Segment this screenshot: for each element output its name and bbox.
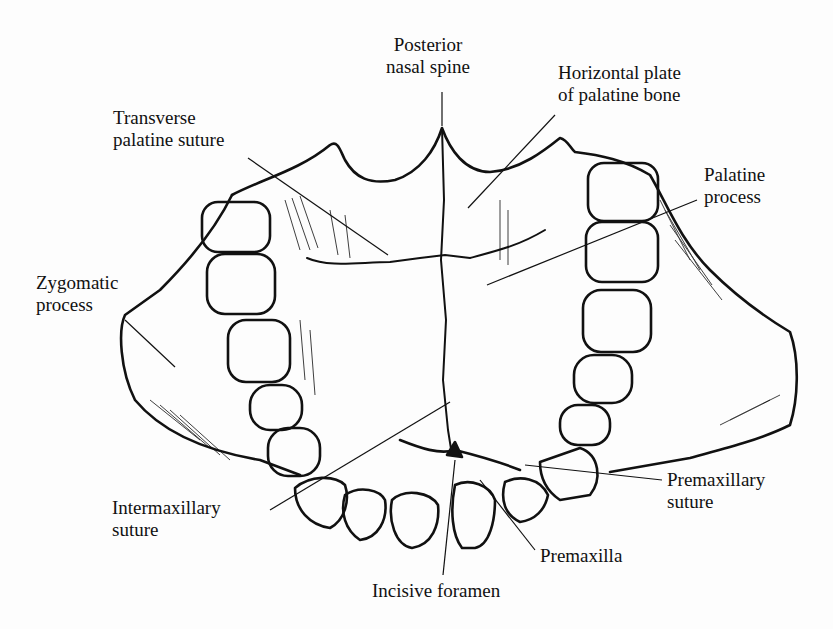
label-transverse-palatine-suture: Transverse palatine suture (113, 107, 224, 151)
leader-zygomatic-process (125, 320, 175, 367)
label-premaxilla: Premaxilla (540, 545, 622, 567)
palate-diagram: Posterior nasal spine Horizontal plate o… (0, 0, 833, 629)
leader-premaxilla (480, 480, 535, 550)
label-zygomatic-process: Zygomatic process (36, 272, 118, 316)
label-premaxillary-suture: Premaxillary suture (667, 469, 765, 513)
transverse-suture-line (307, 230, 545, 264)
label-incisive-foramen: Incisive foramen (372, 580, 500, 602)
label-intermaxillary-suture: Intermaxillary suture (112, 497, 221, 541)
label-posterior-nasal-spine: Posterior nasal spine (386, 34, 470, 78)
leader-horizontal-plate (468, 115, 555, 208)
label-horizontal-plate: Horizontal plate of palatine bone (558, 62, 681, 106)
label-palatine-process: Palatine process (704, 164, 765, 208)
